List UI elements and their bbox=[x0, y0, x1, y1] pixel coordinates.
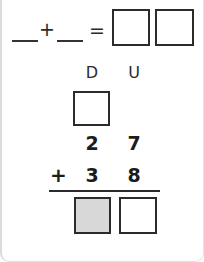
addend-2-units-digit: 8 bbox=[124, 166, 144, 185]
addend-1-units-digit: 7 bbox=[124, 134, 144, 153]
addend-2-tens-digit: 3 bbox=[82, 166, 102, 185]
sum-rule-line bbox=[49, 190, 160, 192]
plus-operator-top: + bbox=[39, 20, 55, 39]
carry-box-tens[interactable] bbox=[73, 91, 110, 126]
addend-1-tens-digit: 2 bbox=[82, 134, 102, 153]
result-box-tens-top[interactable] bbox=[112, 9, 150, 46]
result-box-units-top[interactable] bbox=[155, 9, 194, 46]
addition-worksheet-card: + = D U 2 7 + 3 8 bbox=[0, 0, 204, 262]
sum-box-units[interactable] bbox=[119, 197, 157, 234]
column-heading-tens: D bbox=[82, 65, 102, 81]
blank-addend-2-line[interactable] bbox=[57, 40, 83, 42]
sum-box-tens[interactable] bbox=[74, 197, 111, 234]
plus-operator-column: + bbox=[50, 165, 67, 185]
column-heading-units: U bbox=[124, 65, 144, 81]
blank-addend-1-line[interactable] bbox=[12, 40, 38, 42]
equals-operator-top: = bbox=[89, 21, 105, 40]
